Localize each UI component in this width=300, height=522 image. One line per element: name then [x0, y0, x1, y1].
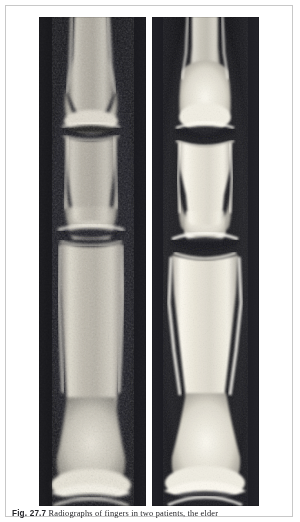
right-radiograph-image — [152, 17, 259, 506]
figure-caption-text: Radiographs of fingers in two patients, … — [49, 509, 219, 518]
right-radiograph-panel — [152, 17, 259, 506]
figure-number-label: Fig. 27.7 — [12, 509, 46, 518]
left-radiograph-panel — [39, 17, 146, 506]
figure-caption: Fig. 27.7 Radiographs of fingers in two … — [12, 509, 290, 522]
figure-page: Fig. 27.7 Radiographs of fingers in two … — [0, 0, 300, 522]
left-radiograph-image — [39, 17, 146, 506]
radiograph-figure — [39, 17, 259, 506]
